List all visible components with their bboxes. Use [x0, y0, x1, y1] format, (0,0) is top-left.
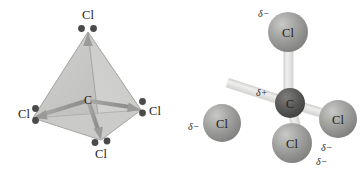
- cl-label-top: Cl: [82, 8, 94, 22]
- cl-symbol-right: Cl: [332, 113, 344, 127]
- cl-symbol-bottom: Cl: [286, 137, 298, 151]
- partial-charge-cl-bottom: δ−: [316, 156, 327, 167]
- cl-symbol-left: Cl: [216, 117, 228, 131]
- cl-label-left: Cl: [18, 107, 30, 121]
- carbon-center-label: C: [84, 93, 92, 107]
- atom-cl-bottom: Cl: [272, 123, 312, 163]
- partial-charge-cl-top: δ−: [258, 8, 269, 19]
- tetrahedron-svg: C Cl Cl Cl Cl: [0, 0, 180, 170]
- atom-cl-left: Cl: [203, 104, 241, 142]
- atom-cl-right: Cl: [319, 100, 357, 138]
- cl-symbol-top: Cl: [282, 26, 294, 40]
- partial-charge-carbon: δ+: [256, 87, 267, 98]
- electron-pair-right: [139, 98, 146, 116]
- cl-label-bottom: Cl: [95, 147, 107, 161]
- cl-label-right: Cl: [149, 104, 161, 118]
- partial-charge-cl-left: δ−: [188, 121, 199, 132]
- electron-pair-top: [78, 25, 97, 32]
- partial-charge-cl-right: δ−: [321, 142, 332, 153]
- ball-and-stick-panel: Cl δ− Cl δ− Cl δ− Cl δ−: [180, 0, 360, 170]
- tetrahedral-geometry-panel: C Cl Cl Cl Cl: [0, 0, 180, 170]
- carbon-symbol: C: [286, 97, 294, 111]
- ball-and-stick-svg: Cl δ− Cl δ− Cl δ− Cl δ−: [180, 0, 360, 170]
- figure-container: C Cl Cl Cl Cl: [0, 0, 360, 170]
- atom-carbon-center: C: [275, 88, 305, 118]
- atom-cl-top: Cl: [268, 12, 308, 52]
